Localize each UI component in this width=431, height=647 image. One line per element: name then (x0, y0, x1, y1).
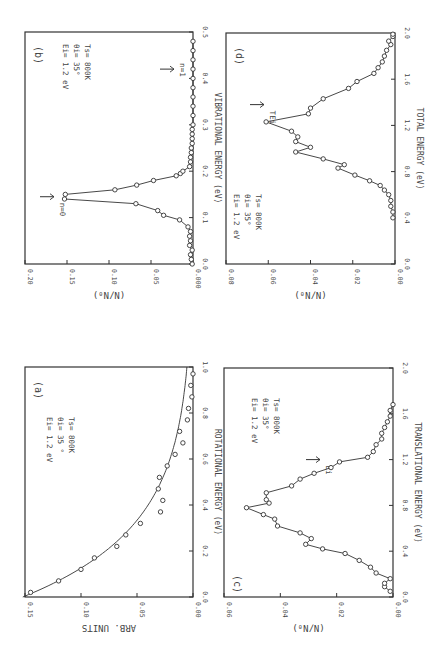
data-point (391, 210, 395, 214)
data-point (189, 257, 193, 261)
data-point (372, 71, 376, 75)
data-point (298, 477, 302, 481)
y-axis-label: ARB. UNITS (82, 623, 136, 633)
data-point (191, 76, 195, 80)
data-point (391, 216, 395, 220)
x-tick-label: 2.0 (403, 27, 411, 39)
data-point (306, 112, 310, 116)
data-point (191, 39, 195, 43)
y-tick-label: 0.02 (337, 602, 345, 618)
data-point (367, 179, 371, 183)
y-tick-label: 0.06 (269, 269, 277, 285)
data-point (312, 471, 316, 475)
y-tick-label: 0.10 (82, 602, 90, 618)
data-point (346, 86, 350, 90)
data-point (138, 521, 142, 525)
condition-annotation: θi= 35 ° (56, 417, 65, 453)
y-tick-label: 0.05 (152, 269, 160, 285)
data-point (294, 139, 298, 143)
data-point (382, 54, 386, 58)
data-point (188, 155, 192, 159)
x-tick-label: 0.0 (201, 258, 209, 270)
x-tick-label: 0.2 (201, 165, 209, 177)
y-tick-label: 0.08 (227, 269, 235, 285)
data-point (185, 418, 189, 422)
data-point (275, 524, 279, 528)
data-point (289, 484, 293, 488)
data-point (378, 183, 382, 187)
x-axis-label: TOTAL ENERGY (eV) (415, 108, 424, 190)
data-point (380, 60, 384, 64)
data-point (298, 531, 302, 535)
y-axis-label: (N/N₀) (93, 290, 126, 300)
data-point (353, 173, 357, 177)
x-tick-label: 0.5 (201, 26, 209, 38)
data-point (374, 571, 378, 575)
data-point (368, 565, 372, 569)
data-point (389, 198, 393, 202)
data-point (391, 32, 395, 36)
panel-c: 0.060.040.020.000.00.40.81.21.62.0(N/N₀)… (224, 362, 422, 633)
data-point (191, 67, 195, 71)
data-point (342, 163, 346, 167)
data-point (188, 239, 192, 243)
y-axis-label: (N/N₀) (294, 290, 327, 300)
data-point (151, 178, 155, 182)
data-point (191, 123, 195, 127)
data-point (380, 437, 384, 441)
data-point (173, 452, 177, 456)
panel-label: (b) (33, 46, 44, 64)
data-point (308, 106, 312, 110)
plot-frame (25, 367, 193, 597)
data-point (190, 395, 194, 399)
x-tick-label: 0.4 (403, 212, 411, 224)
data-point (320, 547, 324, 551)
data-point (304, 542, 308, 546)
data-point (321, 97, 325, 101)
y-tick-label: 0.20 (26, 269, 34, 285)
y-tick-label: 0.04 (311, 269, 319, 285)
data-point (124, 533, 128, 537)
x-tick-label: 1.6 (403, 73, 411, 85)
condition-annotation: θi= 35° (261, 398, 270, 430)
y-tick-label: 0.05 (138, 602, 146, 618)
y-tick-label: 0.06 (225, 602, 233, 618)
data-point (329, 465, 333, 469)
x-tick-label: 0.8 (403, 166, 411, 178)
data-point (336, 166, 340, 170)
x-tick-label: 0.4 (401, 545, 409, 557)
data-point (187, 234, 191, 238)
condition-annotation: Ts= 800K (83, 44, 92, 81)
y-tick-label: 0.00 (396, 269, 404, 285)
x-tick-label: 0.2 (201, 545, 209, 557)
y-tick-label: 0.15 (26, 602, 34, 618)
data-point (387, 193, 391, 197)
data-line (247, 405, 394, 592)
y-axis-label: (N/N₀) (292, 623, 325, 633)
data-point (264, 120, 268, 124)
figure-four-panel-energy-distributions: 0.200.150.100.050.0000.00.10.20.30.40.5(… (0, 0, 431, 647)
data-point (343, 551, 347, 555)
data-point (187, 164, 191, 168)
data-point (157, 475, 161, 479)
data-point (191, 48, 195, 52)
data-point (337, 460, 341, 464)
data-point (374, 443, 378, 447)
x-tick-label: 0.8 (201, 407, 209, 419)
data-point (296, 135, 300, 139)
arrow-label: n=0 (58, 203, 67, 217)
data-point (186, 406, 190, 410)
data-point (264, 498, 268, 502)
plot-frame (224, 368, 393, 597)
data-point (156, 208, 160, 212)
arrow-label: TEi (268, 111, 277, 125)
data-point (190, 262, 194, 266)
data-point (294, 150, 298, 154)
x-tick-label: 2.0 (401, 362, 409, 374)
condition-annotation: Ts= 800K (272, 398, 281, 435)
data-point (244, 506, 248, 510)
condition-annotation: θi= 35° (243, 194, 252, 226)
panel-b: 0.200.150.100.050.0000.00.10.20.30.40.5(… (25, 26, 222, 300)
data-point (134, 202, 138, 206)
condition-annotation: Ei= 1.2 eV (250, 398, 259, 444)
